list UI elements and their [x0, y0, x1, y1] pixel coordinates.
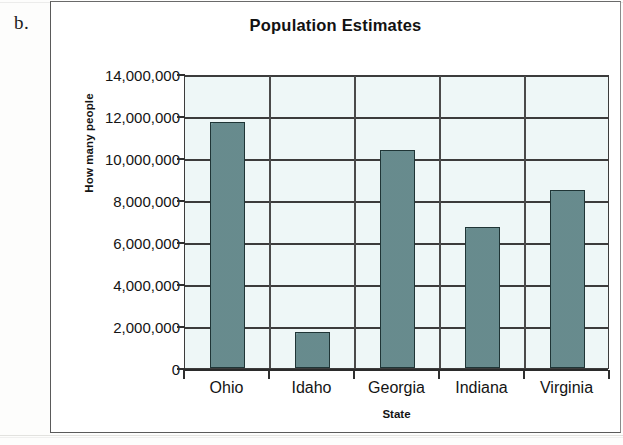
x-axis-tick-mark	[438, 370, 440, 379]
x-axis-tick-label: Ohio	[184, 379, 269, 405]
x-axis-tick-mark	[608, 370, 610, 379]
x-axis-tick-labels: OhioIdahoGeorgiaIndianaVirginia	[184, 379, 609, 405]
y-axis-tick-mark	[177, 326, 185, 328]
scanned-page: b. Population Estimates How many people …	[0, 0, 623, 445]
x-axis-tick-label: Georgia	[354, 379, 439, 405]
y-axis-tick-label: 10,000,000	[60, 151, 180, 168]
y-axis-tick-label: 6,000,000	[60, 235, 180, 252]
bar-virginia	[550, 190, 586, 369]
plot-area	[184, 75, 609, 369]
y-axis-tick-mark	[177, 74, 185, 76]
x-axis-tick-mark	[353, 370, 355, 379]
x-axis-tick-label: Indiana	[439, 379, 524, 405]
y-axis-tick-labels: 14,000,00012,000,00010,000,0008,000,0006…	[56, 75, 180, 369]
chart-frame: Population Estimates How many people 14,…	[50, 1, 621, 433]
category-separator	[439, 76, 440, 368]
x-axis-tick-mark	[268, 370, 270, 379]
x-axis-tick-mark	[183, 370, 185, 379]
y-axis-tick-mark	[177, 116, 185, 118]
y-axis-tick-label: 8,000,000	[60, 193, 180, 210]
y-axis-tick-label: 12,000,000	[60, 109, 180, 126]
gridline	[185, 369, 608, 371]
y-axis-tick-label: 4,000,000	[60, 277, 180, 294]
bar-georgia	[380, 150, 416, 368]
x-axis-tick-mark	[523, 370, 525, 379]
category-separator	[354, 76, 355, 368]
bar-ohio	[210, 122, 246, 368]
chart-title: Population Estimates	[51, 16, 620, 35]
gridline	[185, 117, 608, 119]
y-axis-tick-mark	[177, 284, 185, 286]
scan-artifact-bottom	[0, 435, 623, 436]
y-axis-tick-mark	[177, 158, 185, 160]
y-axis-tick-label: 0	[60, 361, 180, 378]
y-axis-tick-mark	[177, 200, 185, 202]
y-axis-tick-label: 2,000,000	[60, 319, 180, 336]
x-axis-tick-label: Idaho	[269, 379, 354, 405]
x-axis-title: State	[184, 408, 609, 420]
category-separator	[269, 76, 270, 368]
y-axis-tick-mark	[177, 242, 185, 244]
scan-artifact-bottom-2	[0, 437, 623, 438]
category-separator	[524, 76, 525, 368]
figure-item-label: b.	[14, 12, 29, 34]
bar-idaho	[295, 332, 331, 368]
bar-indiana	[465, 227, 501, 368]
gridline	[185, 75, 608, 77]
y-axis-tick-label: 14,000,000	[60, 67, 180, 84]
x-axis-tick-label: Virginia	[524, 379, 609, 405]
